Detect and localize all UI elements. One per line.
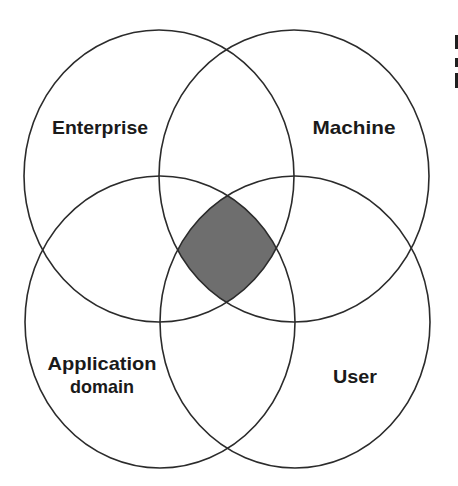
machine-label: Machine	[313, 117, 396, 138]
enterprise-label: Enterprise	[52, 117, 148, 138]
application-domain-label-line1: Application	[48, 353, 157, 374]
application-domain-label-line2: domain	[70, 376, 134, 397]
user-label: User	[333, 366, 378, 387]
venn-diagram: Enterprise Machine Application domain Us…	[0, 0, 458, 486]
